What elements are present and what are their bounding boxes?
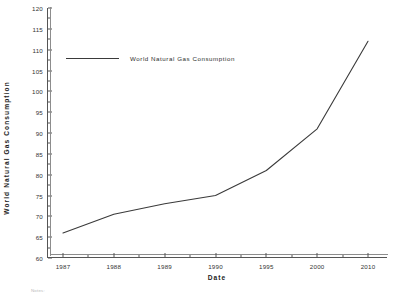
y-axis-tick-label: 120 bbox=[32, 5, 48, 12]
y-axis-tick-mark bbox=[48, 258, 52, 259]
y-axis-tick-mark bbox=[48, 216, 52, 217]
y-axis-title: World Natural Gas Consumption bbox=[3, 48, 10, 248]
y-axis-tick-mark bbox=[48, 8, 52, 9]
y-axis-tick-label: 70 bbox=[36, 213, 48, 220]
y-axis-tick-mark bbox=[48, 91, 52, 92]
y-axis-tick-mark bbox=[48, 153, 52, 154]
y-axis-tick-label: 75 bbox=[36, 192, 48, 199]
y-axis-tick-mark bbox=[48, 49, 52, 50]
y-axis-tick-label: 110 bbox=[33, 46, 48, 53]
y-axis-minor-tick-mark bbox=[48, 226, 51, 227]
x-axis-tick-mark bbox=[215, 253, 216, 257]
y-axis-minor-tick-mark bbox=[48, 60, 51, 61]
y-axis-tick-label: 90 bbox=[36, 130, 48, 137]
y-axis-tick-label: 65 bbox=[36, 234, 48, 241]
y-axis-minor-tick-mark bbox=[48, 205, 51, 206]
y-axis-tick-label: 80 bbox=[36, 171, 48, 178]
series-polyline bbox=[63, 41, 368, 233]
x-axis-tick-label: 2010 bbox=[361, 263, 376, 270]
y-axis-tick-label: 60 bbox=[36, 255, 48, 262]
x-axis-minor-tick-mark bbox=[139, 255, 140, 258]
y-axis-tick-label: 115 bbox=[33, 25, 48, 32]
x-axis-tick-label: 1990 bbox=[208, 263, 223, 270]
y-axis-tick-mark bbox=[48, 70, 52, 71]
y-axis-minor-tick-mark bbox=[48, 39, 51, 40]
y-axis-tick-mark bbox=[48, 112, 52, 113]
chart-legend: World Natural Gas Consumption bbox=[66, 55, 235, 62]
x-axis-minor-tick-mark bbox=[190, 255, 191, 258]
notes-label: Notes: bbox=[31, 288, 45, 293]
x-axis-tick-mark bbox=[317, 253, 318, 257]
x-axis-tick-label: 1988 bbox=[107, 263, 122, 270]
x-axis-tick-label: 1987 bbox=[56, 263, 71, 270]
legend-line-swatch-icon bbox=[66, 58, 119, 59]
y-axis-tick-label: 85 bbox=[36, 150, 48, 157]
y-axis-minor-tick-mark bbox=[48, 101, 51, 102]
chart-figure: World Natural Gas Consumption 6065707580… bbox=[0, 0, 415, 296]
x-axis-tick-mark bbox=[113, 253, 114, 257]
y-axis-minor-tick-mark bbox=[48, 80, 51, 81]
y-axis-tick-mark bbox=[48, 237, 52, 238]
x-axis-minor-tick-mark bbox=[240, 255, 241, 258]
y-axis-tick-mark bbox=[48, 133, 52, 134]
x-axis-minor-tick-mark bbox=[342, 255, 343, 258]
x-axis-tick-mark bbox=[63, 253, 64, 257]
y-axis-minor-tick-mark bbox=[48, 143, 51, 144]
x-axis-tick-mark bbox=[266, 253, 267, 257]
y-axis-tick-mark bbox=[48, 174, 52, 175]
y-axis-tick-label: 100 bbox=[32, 88, 48, 95]
data-series-line bbox=[48, 8, 388, 258]
x-axis-tick-label: 1995 bbox=[259, 263, 274, 270]
x-axis-tick-label: 1989 bbox=[157, 263, 172, 270]
y-axis-tick-label: 95 bbox=[36, 109, 48, 116]
y-axis-minor-tick-mark bbox=[48, 247, 51, 248]
x-axis-tick-mark bbox=[164, 253, 165, 257]
x-axis-minor-tick-mark bbox=[291, 255, 292, 258]
y-axis-tick-mark bbox=[48, 195, 52, 196]
y-axis-tick-mark bbox=[48, 28, 52, 29]
x-axis-tick-label: 2000 bbox=[310, 263, 325, 270]
y-axis-minor-tick-mark bbox=[48, 185, 51, 186]
legend-entry-label: World Natural Gas Consumption bbox=[130, 55, 235, 62]
x-axis-title: Date bbox=[47, 274, 387, 281]
x-axis-minor-tick-mark bbox=[88, 255, 89, 258]
y-axis-tick-label: 105 bbox=[32, 67, 48, 74]
plot-area: 6065707580859095100105110115120198719881… bbox=[47, 8, 387, 258]
y-axis-minor-tick-mark bbox=[48, 18, 51, 19]
y-axis-minor-tick-mark bbox=[48, 122, 51, 123]
y-axis-minor-tick-mark bbox=[48, 164, 51, 165]
x-axis-tick-mark bbox=[368, 253, 369, 257]
